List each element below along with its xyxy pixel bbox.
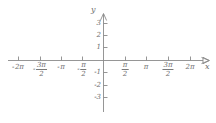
y-tick-label--3: -3 [89, 94, 101, 101]
fraction: π 2 [122, 62, 129, 78]
x-tick-marks [19, 57, 191, 61]
denominator: 2 [80, 70, 87, 78]
x-tick-label-3pi-2: 3π 2 [162, 62, 173, 78]
y-tick-label--1: -1 [89, 69, 101, 76]
numerator: π [80, 62, 87, 70]
y-axis-label: y [91, 6, 96, 14]
x-tick-label-2pi: 2π [185, 64, 194, 71]
x-tick-label-pi-2: π 2 [122, 62, 129, 78]
y-tick-label-2: 2 [92, 32, 101, 39]
denominator: 2 [162, 70, 173, 78]
x-tick-label--3pi-2: - 3π 2 [33, 62, 47, 78]
pi-symbol: π [19, 63, 24, 71]
pi-symbol: π [144, 63, 149, 71]
numerator: 3π [162, 62, 173, 70]
denominator: 2 [36, 70, 47, 78]
fraction: π 2 [80, 62, 87, 78]
y-tick-label--2: -2 [89, 82, 101, 89]
x-tick-label--pi-2: - π 2 [77, 62, 86, 78]
y-tick-label-1: 1 [92, 44, 101, 51]
x-tick-label--pi: -π [57, 64, 64, 71]
y-tick-label-3: 3 [92, 20, 101, 27]
fraction: 3π 2 [36, 62, 47, 78]
numerator: 3π [36, 62, 47, 70]
x-axis-label: x [205, 63, 210, 71]
fraction: 3π 2 [162, 62, 173, 78]
pi-symbol: π [190, 63, 195, 71]
coordinate-plane-chart: -2π - 3π 2 -π - π 2 π 2 π 3π 2 2π 3 2 1 [0, 0, 216, 123]
pi-symbol: π [60, 63, 65, 71]
x-tick-label--2pi: -2π [12, 64, 24, 71]
x-tick-label-pi: π [144, 64, 149, 71]
denominator: 2 [122, 70, 129, 78]
numerator: π [122, 62, 129, 70]
